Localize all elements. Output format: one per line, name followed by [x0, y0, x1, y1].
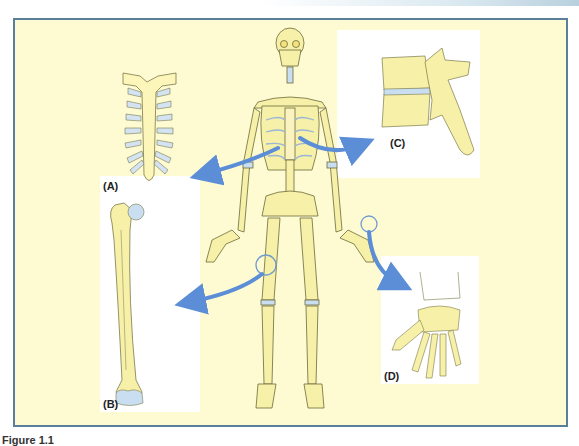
panel-label-d: (D)	[384, 370, 399, 382]
hand-illustration	[392, 272, 461, 378]
panel-label-c: (C)	[390, 137, 405, 149]
figure-caption: Figure 1.1	[0, 434, 579, 444]
hand-highlight-circle	[361, 216, 377, 232]
skeleton-illustration	[206, 28, 374, 408]
arrow-to-femur	[190, 274, 262, 302]
sternum-illustration	[123, 73, 176, 181]
femur-illustration	[111, 203, 144, 406]
arrow-to-hand	[369, 232, 398, 283]
panel-label-b: (B)	[103, 398, 118, 410]
panel-label-a: (A)	[103, 180, 118, 192]
